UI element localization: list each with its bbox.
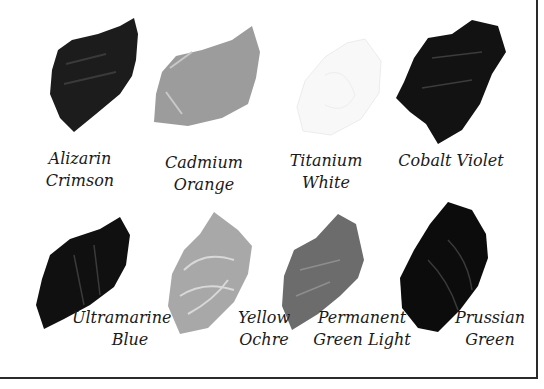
label-line-1: Prussian <box>450 307 530 329</box>
swatch-label-prussian-green: Prussian Green <box>450 307 530 351</box>
label-line-2: Crimson <box>38 170 122 192</box>
swatch-label-yellow-ochre: Yellow Ochre <box>232 307 296 351</box>
label-line-2: White <box>280 172 372 194</box>
label-line-1: Cadmium <box>156 152 252 174</box>
swatch-label-titanium-white: Titanium White <box>280 150 372 194</box>
label-line-1: Cobalt Violet <box>384 150 518 172</box>
label-line-2: Blue <box>72 329 168 351</box>
swatch-label-ultramarine-blue: Ultramarine Blue <box>72 307 168 351</box>
label-line-2: Green <box>450 329 530 351</box>
label-line-1: Yellow <box>232 307 296 329</box>
paint-swatch-cobalt-violet <box>392 18 510 146</box>
paint-swatch-cadmium-orange <box>152 22 264 128</box>
paint-swatch-titanium-white <box>295 35 385 137</box>
label-line-1: Ultramarine <box>72 307 168 329</box>
swatch-label-cobalt-violet: Cobalt Violet <box>384 150 518 172</box>
label-line-1: Alizarin <box>38 148 122 170</box>
label-line-2: Orange <box>156 174 252 196</box>
swatch-label-cadmium-orange: Cadmium Orange <box>156 152 252 196</box>
label-line-1: Permanent <box>312 307 412 329</box>
swatch-label-permanent-green-light: Permanent Green Light <box>312 307 412 351</box>
swatch-label-alizarin-crimson: Alizarin Crimson <box>38 148 122 192</box>
label-line-1: Titanium <box>280 150 372 172</box>
label-line-2: Green Light <box>312 329 412 351</box>
paint-swatch-alizarin-crimson <box>46 14 142 134</box>
label-line-2: Ochre <box>232 329 296 351</box>
